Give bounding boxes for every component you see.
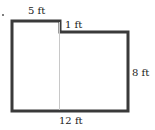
label-bottom-width: 12 ft bbox=[59, 116, 83, 126]
bullet-dot bbox=[2, 14, 4, 16]
label-top-left-width: 5 ft bbox=[28, 6, 45, 16]
label-right-height: 8 ft bbox=[132, 68, 149, 78]
shape-outline bbox=[12, 21, 128, 111]
label-step-height: 1 ft bbox=[65, 20, 82, 30]
